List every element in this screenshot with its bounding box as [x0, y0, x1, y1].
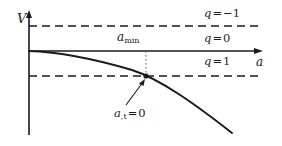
equals-sign: = — [211, 31, 223, 45]
a-min-subscript: min — [124, 36, 139, 45]
a-t-subscript: ,t — [121, 112, 127, 121]
a-axis-arrowhead — [254, 48, 263, 54]
annotation-arrow-a-t-zero — [126, 79, 145, 105]
label-q-minus-one: q=−1 — [204, 8, 240, 20]
equals-sign: = — [211, 6, 223, 20]
potential-curve — [29, 51, 232, 133]
equals-sign: = — [211, 54, 223, 68]
a-t-value: 0 — [138, 106, 145, 120]
figure-canvas — [0, 0, 282, 146]
y-axis-label: V — [17, 12, 26, 25]
x-axis-label: a — [256, 56, 263, 68]
marker-a-t-zero — [143, 73, 148, 78]
a-t-base: a — [114, 106, 121, 120]
label-a-t-zero: a,t=0 — [114, 108, 146, 120]
q-value: 1 — [223, 54, 230, 68]
q-value: −1 — [223, 6, 240, 20]
label-q-one: q=1 — [204, 56, 230, 68]
potential-vs-scale-factor-figure: V a amin q=−1 q=0 q=1 a,t=0 — [0, 0, 282, 146]
q-value: 0 — [223, 31, 230, 45]
v-axis-arrowhead — [26, 10, 32, 18]
a-min-label: amin — [117, 31, 139, 43]
vertical-axis-V — [26, 10, 32, 135]
equals-sign: = — [127, 106, 139, 120]
label-q-zero: q=0 — [204, 33, 230, 45]
